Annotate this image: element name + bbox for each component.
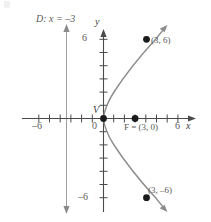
parabola-figure: D: x = –3 y x 6 –6 –6 6 0 V F = (3, 0) (… — [0, 0, 211, 222]
x-tick-label-6: 6 — [175, 121, 180, 131]
directrix-arrow-up — [63, 24, 69, 32]
point-label-3-6: (3, 6) — [151, 36, 171, 45]
focus-point — [132, 115, 139, 122]
directrix-arrow-down — [63, 206, 69, 214]
y-tick-label-6: 6 — [82, 33, 87, 43]
directrix-label: D: x = –3 — [36, 14, 75, 24]
origin-label: 0 — [92, 121, 97, 131]
graph-canvas — [0, 0, 211, 222]
x-tick-label-neg6: –6 — [32, 121, 42, 131]
vertex-label: V — [93, 105, 99, 115]
point-3-neg6 — [143, 194, 150, 201]
vertex-point — [100, 115, 107, 122]
corner-artifact — [4, 1, 10, 8]
y-axis-arrow — [100, 29, 106, 37]
point-3-6 — [143, 36, 150, 43]
y-axis-label: y — [95, 17, 99, 27]
x-axis-label: x — [186, 121, 190, 131]
point-label-3-neg6: (3, –6) — [148, 186, 172, 195]
y-tick-label-neg6: –6 — [78, 192, 88, 202]
curve-arrow-upper — [160, 25, 168, 32]
focus-label: F = (3, 0) — [124, 123, 158, 132]
curve-arrow-lower — [160, 205, 168, 212]
x-axis — [22, 115, 196, 121]
